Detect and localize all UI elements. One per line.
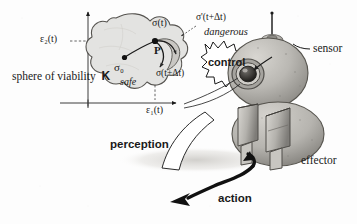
safe-label: safe	[120, 76, 136, 87]
robot-eye-lens	[240, 66, 257, 82]
epsilon-2-axis-label: ε₂(t)	[40, 33, 57, 44]
dangerous-label: dangerous	[204, 26, 248, 37]
viability-symbol-K: K	[102, 69, 111, 83]
sigma-prime-t-plus-dt-label: σ'(t+Δt)	[196, 12, 226, 22]
state-dot-sigma0	[122, 55, 127, 60]
sigma-initial-label: σ₀	[114, 61, 124, 73]
robot-eye-highlight	[242, 68, 247, 72]
viability-caption-text: sphere of viability	[12, 70, 96, 82]
perception-label: perception	[110, 138, 169, 150]
epsilon-1-axis-label: ε₁(t)	[146, 104, 163, 115]
sigma-t-label: σ(t)	[152, 17, 167, 28]
effector-label: effector	[301, 154, 337, 166]
dangerous-label-leader	[181, 26, 196, 36]
viability-caption: sphere of viability K	[12, 69, 110, 83]
point-P-label: P	[154, 44, 161, 56]
robot-antenna-tip	[270, 11, 273, 14]
control-to-sensor-lines	[184, 78, 240, 108]
sigma-t-plus-dt-label: σ(t+Δt)	[156, 68, 184, 78]
action-label: action	[218, 192, 252, 204]
sensor-label: sensor	[313, 42, 342, 54]
action-arrow-head	[170, 193, 190, 206]
control-label: control	[208, 56, 245, 68]
